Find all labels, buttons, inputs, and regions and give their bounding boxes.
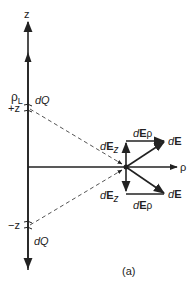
- z-axis-label: z: [24, 8, 30, 20]
- upper-vector-set: [126, 141, 164, 167]
- lower-position-label: −z: [8, 219, 20, 231]
- figure-caption: (a): [122, 265, 135, 277]
- lower-dEz-label: dEz: [100, 189, 118, 204]
- upper-dashed-line: [30, 109, 122, 164]
- upper-position-label: +z: [8, 102, 20, 114]
- upper-dE-label: dE: [168, 135, 181, 147]
- field-diagram: z ρL +z dQ −z dQ ρ dEz dEρ dE dEz dEρ dE…: [0, 0, 194, 292]
- lower-vector-set: [126, 167, 164, 194]
- upper-dErho-label: dEρ: [133, 127, 152, 139]
- z-axis: [25, 22, 32, 270]
- upper-charge-label: dQ: [35, 94, 50, 106]
- lower-dE-label: dE: [168, 188, 181, 200]
- lower-dErho-label: dEρ: [133, 199, 152, 211]
- line-charge-arrow-icon: [25, 52, 32, 62]
- lower-charge-label: dQ: [34, 235, 49, 247]
- rho-axis-label: ρ: [180, 161, 186, 173]
